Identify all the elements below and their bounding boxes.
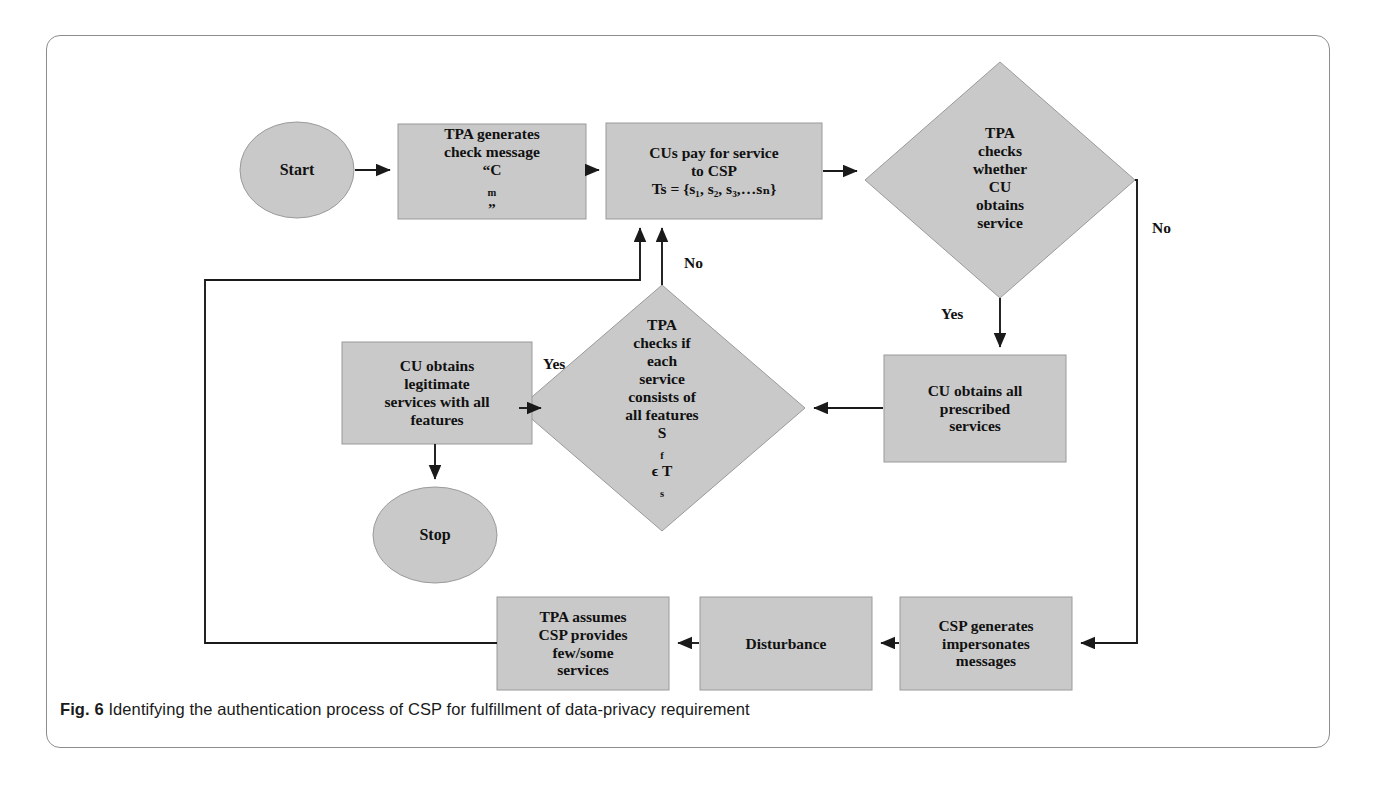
node-tpa-generates-cm: “Cm” bbox=[483, 161, 502, 217]
node-cu-legitimate-label: CU obtains legitimate services with all … bbox=[342, 342, 532, 444]
node-disturbance-label: Disturbance bbox=[700, 597, 872, 690]
node-cus-pay-label: CUs pay for service to CSP Ts = {s₁, s₂,… bbox=[606, 123, 822, 219]
figure-caption-number: Fig. 6 bbox=[60, 700, 104, 718]
figure-container: Start TPA generates check message “Cm” C… bbox=[0, 0, 1373, 788]
node-tpa-generates-label: TPA generates check message “Cm” bbox=[398, 124, 586, 219]
edge-label-yes-left: Yes bbox=[543, 355, 565, 373]
edge-label-no-center: No bbox=[684, 254, 703, 272]
node-decision-service-label: TPA checks whether CU obtains service bbox=[910, 78, 1090, 278]
figure-caption-text: Identifying the authentication process o… bbox=[108, 700, 749, 718]
edge-label-yes-down: Yes bbox=[941, 305, 963, 323]
edge-label-no-right: No bbox=[1152, 219, 1171, 237]
node-tpa-assumes-label: TPA assumes CSP provides few/some servic… bbox=[497, 597, 669, 690]
node-cu-prescribed-label: CU obtains all prescribed services bbox=[884, 355, 1066, 462]
node-start-label: Start bbox=[240, 122, 354, 218]
figure-caption: Fig. 6 Identifying the authentication pr… bbox=[60, 700, 1320, 719]
node-csp-generates-label: CSP generates impersonates messages bbox=[900, 597, 1072, 690]
node-decision-features-formula: Sf ϵ Ts bbox=[652, 424, 673, 500]
node-decision-features-label: TPA checks if each service consists of a… bbox=[570, 300, 754, 516]
node-stop-label: Stop bbox=[373, 487, 497, 583]
